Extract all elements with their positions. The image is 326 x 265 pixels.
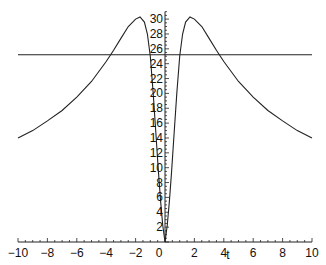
y-tick-label: 10 — [150, 161, 164, 175]
y-tick-label: 20 — [150, 86, 164, 100]
line-chart: −10−8−6−4−20246810 246810121416182022242… — [0, 0, 326, 265]
x-tick-label: 6 — [250, 246, 257, 260]
y-tick-label: 22 — [150, 72, 164, 86]
y-tick-label: 14 — [150, 131, 164, 145]
y-tick-label: 26 — [150, 42, 164, 56]
x-tick-label: 8 — [279, 246, 286, 260]
y-tick-label: 30 — [150, 12, 164, 26]
y-tick-label: 28 — [150, 27, 164, 41]
y-tick-label: 24 — [150, 57, 164, 71]
x-tick-label: −10 — [8, 246, 29, 260]
y-tick-label: 12 — [150, 146, 164, 160]
y-tick-label: 8 — [156, 176, 163, 190]
y-tick-label: 16 — [150, 116, 164, 130]
x-tick-label: −8 — [41, 246, 55, 260]
x-axis: −10−8−6−4−20246810 — [8, 238, 319, 260]
y-tick-label: 4 — [156, 205, 163, 219]
x-tick-label: 2 — [191, 246, 198, 260]
y-tick-label: 2 — [156, 220, 163, 234]
y-tick-label: 18 — [150, 101, 164, 115]
x-tick-label: 10 — [305, 246, 319, 260]
x-tick-label: 0 — [156, 246, 163, 260]
y-axis: 24681012141618202224262830 — [150, 12, 169, 242]
x-axis-label: t — [226, 248, 230, 262]
x-tick-label: −4 — [99, 246, 113, 260]
x-tick-label: −2 — [129, 246, 143, 260]
y-tick-label: 6 — [156, 190, 163, 204]
x-tick-label: −6 — [70, 246, 84, 260]
